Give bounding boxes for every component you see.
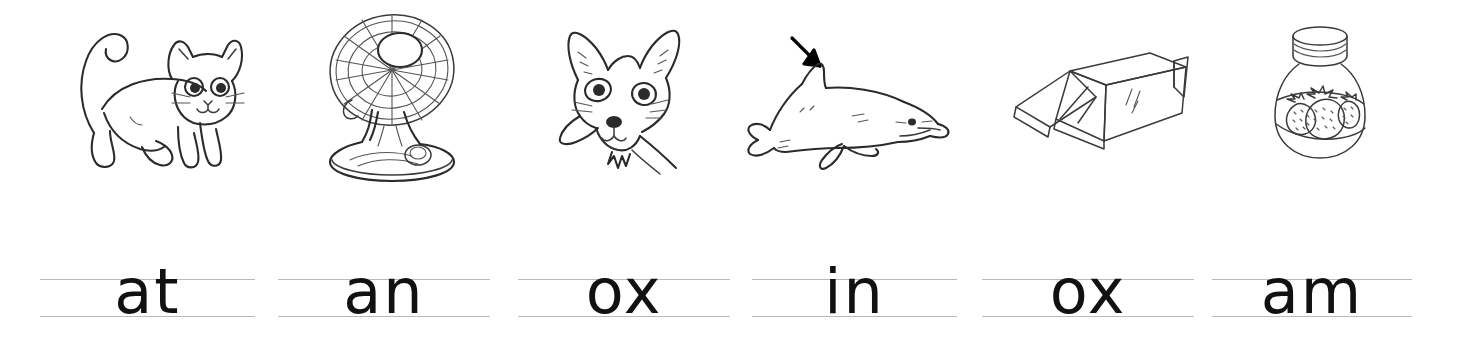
fox-icon [540,18,710,178]
picture-dolphin [740,0,965,196]
cat-icon [60,11,250,186]
word-text-2: an [278,196,490,356]
writing-line-group-2[interactable]: an [278,196,490,356]
worksheet-page: at an ox in ox am [0,0,1460,356]
picture-jam [1255,0,1385,196]
word-text-3: ox [518,196,730,356]
picture-row [0,0,1460,196]
arrow-icon [792,38,820,66]
picture-fox [540,0,710,196]
word-text-5: ox [982,196,1194,356]
word-text-4: in [752,196,957,356]
picture-box [998,0,1198,196]
word-text-6: am [1212,196,1412,356]
writing-line-group-5[interactable]: ox [982,196,1194,356]
picture-fan [300,0,485,196]
electric-fan-icon [300,8,485,188]
writing-row: at an ox in ox am [0,196,1460,356]
word-text-1: at [40,196,255,356]
writing-line-group-6[interactable]: am [1212,196,1412,356]
writing-line-group-3[interactable]: ox [518,196,730,356]
dolphin-icon [740,18,965,178]
writing-line-group-4[interactable]: in [752,196,957,356]
cardboard-box-icon [998,23,1198,173]
writing-line-group-1[interactable]: at [40,196,255,356]
jam-jar-icon [1255,18,1385,178]
picture-cat [60,0,250,196]
